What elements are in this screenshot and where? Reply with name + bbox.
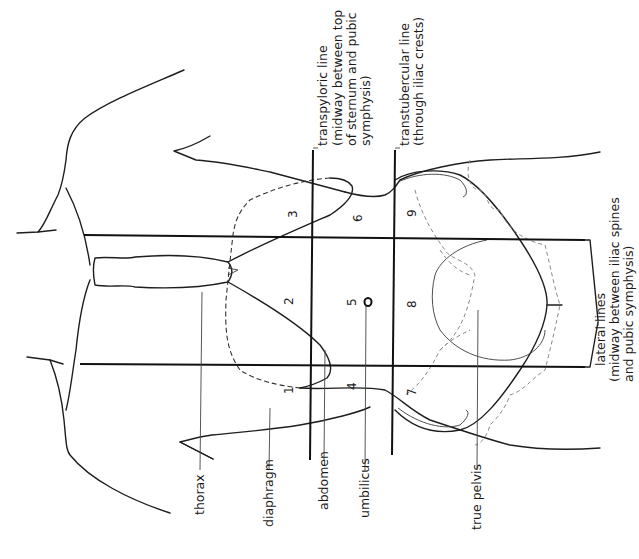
neck-left-lower bbox=[66, 280, 90, 410]
body-outline bbox=[17, 70, 600, 513]
region-8: 8 bbox=[405, 300, 419, 308]
pelvis bbox=[395, 160, 562, 445]
region-3: 3 bbox=[286, 210, 300, 218]
sacrum-outline bbox=[468, 160, 560, 445]
lower-clavicle bbox=[27, 357, 63, 364]
lower-axilla bbox=[180, 407, 370, 459]
transtubercular-line bbox=[392, 150, 395, 455]
region-5: 5 bbox=[345, 298, 359, 306]
umbilicus-leader bbox=[365, 306, 366, 470]
label-transpyloric-2: (midway between top bbox=[330, 10, 345, 146]
leader-lines bbox=[200, 292, 478, 470]
neck-left-upper bbox=[66, 188, 90, 265]
abdominal-regions-diagram: 1 2 3 4 5 6 7 8 9 thorax diaphragm abdom… bbox=[0, 0, 639, 559]
transpyloric-line bbox=[310, 150, 313, 460]
label-diaphragm: diaphragm bbox=[261, 459, 276, 527]
abdomen-leader bbox=[324, 350, 325, 460]
label-true-pelvis: true pelvis bbox=[469, 464, 484, 530]
costal-margin-upper bbox=[228, 178, 353, 262]
xiphoid-process bbox=[228, 268, 238, 275]
iliac-crest-inner-lower bbox=[398, 408, 468, 427]
region-1: 1 bbox=[282, 386, 296, 394]
thorax-leader bbox=[200, 292, 202, 470]
region-9: 9 bbox=[405, 209, 419, 217]
sternum bbox=[94, 255, 232, 288]
upper-clavicle-tick bbox=[38, 230, 56, 232]
diaphragm-contour bbox=[226, 178, 330, 388]
top-labels: transpyloric line (midway between top of… bbox=[313, 10, 426, 148]
planes bbox=[80, 150, 598, 460]
umbilicus-marker bbox=[365, 298, 372, 306]
label-lateral-2: (midway between iliac spines bbox=[607, 197, 622, 382]
lower-lateral-line bbox=[80, 364, 585, 367]
label-lateral-1: lateral lines bbox=[593, 293, 608, 366]
upper-lateral-line bbox=[84, 235, 585, 240]
iliac-crest-inner-upper bbox=[398, 174, 466, 197]
upper-shoulder-outline bbox=[17, 70, 184, 233]
lower-flank bbox=[300, 388, 600, 450]
label-transpyloric-4: symphysis) bbox=[358, 75, 373, 146]
label-lateral-3: and pubic symphysis) bbox=[621, 246, 636, 382]
upper-flank bbox=[345, 152, 600, 196]
label-abdomen: abdomen bbox=[316, 451, 331, 510]
right-labels: lateral lines (midway between iliac spin… bbox=[593, 197, 636, 382]
true-pelvis-leader bbox=[477, 310, 478, 470]
label-transpyloric-3: of sternum and pubic bbox=[344, 12, 359, 146]
inner-pelvis-dashed bbox=[405, 190, 475, 395]
lower-shoulder-outline bbox=[50, 360, 170, 513]
region-6: 6 bbox=[351, 214, 365, 222]
label-transtubercular-1: transtubercular line bbox=[397, 23, 412, 146]
region-2: 2 bbox=[282, 297, 296, 305]
label-transtubercular-2: (through iliac crests) bbox=[411, 17, 426, 146]
region-4: 4 bbox=[345, 382, 359, 390]
lower-axilla-tick bbox=[180, 442, 213, 459]
label-thorax: thorax bbox=[192, 474, 207, 515]
true-pelvis-circle bbox=[432, 240, 545, 360]
label-umbilicus: umbilicus bbox=[357, 458, 372, 518]
bottom-labels: thorax diaphragm abdomen umbilicus true … bbox=[192, 451, 484, 530]
label-transpyloric-1: transpyloric line bbox=[315, 45, 330, 146]
region-7: 7 bbox=[405, 388, 419, 396]
